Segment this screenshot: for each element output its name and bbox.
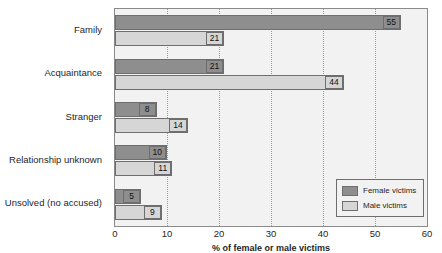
x-tick-label: 40 — [318, 228, 329, 240]
x-tick-label: 20 — [214, 228, 225, 240]
bar-value-label: 21 — [206, 32, 223, 45]
bar — [115, 15, 401, 30]
category-label: Stranger — [0, 111, 102, 122]
legend-label: Male victims — [363, 201, 407, 210]
category-axis: FamilyAcquaintanceStrangerRelationship u… — [0, 8, 108, 227]
category-label: Unsolved (no accused) — [0, 197, 102, 208]
bar-value-label: 21 — [206, 60, 223, 73]
x-tick-label: 10 — [162, 228, 173, 240]
bar-value-label: 9 — [144, 206, 161, 219]
legend-label: Female victims — [363, 186, 416, 195]
legend-item[interactable]: Female victims — [342, 184, 418, 197]
x-axis-title: % of female or male victims — [114, 243, 428, 253]
gridline — [323, 9, 324, 226]
bar-value-label: 14 — [169, 119, 186, 132]
bar-value-label: 11 — [154, 162, 171, 175]
x-tick-label: 30 — [266, 228, 277, 240]
bar-value-label: 55 — [383, 16, 400, 29]
bar-value-label: 5 — [123, 190, 140, 203]
x-tick-label: 60 — [422, 228, 433, 240]
x-tick-label: 0 — [112, 228, 117, 240]
bar-chart: FamilyAcquaintanceStrangerRelationship u… — [0, 0, 442, 253]
bar-value-label: 8 — [139, 103, 156, 116]
legend-swatch-icon — [342, 186, 358, 196]
value-axis: 0102030405060 — [114, 228, 428, 241]
category-label: Relationship unknown — [0, 154, 102, 165]
bar — [115, 75, 344, 90]
x-tick-label: 50 — [370, 228, 381, 240]
category-label: Family — [0, 24, 102, 35]
gridline — [271, 9, 272, 226]
bar-value-label: 10 — [149, 146, 166, 159]
chart-legend: Female victimsMale victims — [336, 179, 424, 217]
legend-item[interactable]: Male victims — [342, 199, 418, 212]
category-label: Acquaintance — [0, 67, 102, 78]
legend-swatch-icon — [342, 201, 358, 211]
bar-value-label: 44 — [325, 76, 342, 89]
